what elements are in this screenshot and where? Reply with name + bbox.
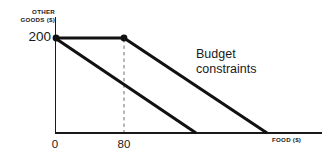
budget-constraints-annotation: Budgetconstraints — [196, 47, 256, 78]
x-axis-tick-label-80: 80 — [113, 138, 135, 150]
x-axis-title: FOOD ($) — [272, 137, 301, 144]
y-axis-title-line-2: GOODS ($) — [11, 16, 55, 24]
y-axis-title: OTHERGOODS ($) — [11, 8, 55, 24]
y-axis-tick-label-200: 200 — [18, 30, 51, 45]
annotation-line-2: constraints — [196, 62, 256, 77]
budget-constraint-chart: OTHERGOODS ($) 200 0 80 FOOD ($) Budgetc… — [0, 0, 328, 167]
annotation-line-1: Budget — [196, 47, 256, 62]
vertical-intercept-point-marker — [53, 35, 60, 42]
inner-budget-constraint-line — [55, 38, 196, 133]
kink-point-marker — [121, 35, 128, 42]
y-axis-title-line-1: OTHER — [11, 8, 55, 16]
x-axis-tick-label-0: 0 — [47, 138, 63, 150]
